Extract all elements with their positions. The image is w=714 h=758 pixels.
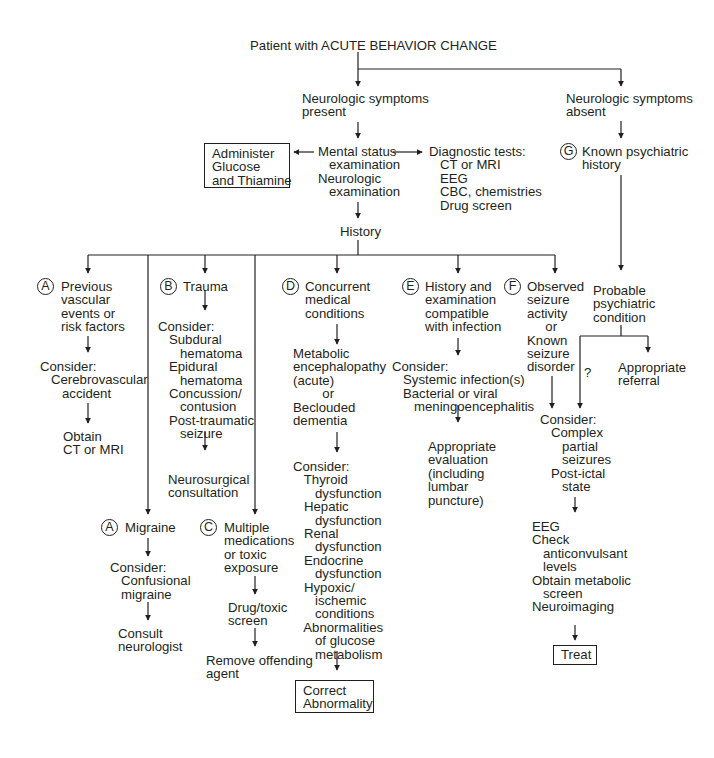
letter-e-circle-icon: E (402, 278, 419, 295)
node-appropriate-referral: Appropriate referral (618, 361, 686, 388)
node-history-infection: History and examination compatible with … (425, 280, 501, 334)
question-mark-label: ? (584, 366, 591, 379)
letter-g-circle-icon: G (560, 143, 577, 160)
flowchart-canvas: Patient with ACUTE BEHAVIOR CHANGE Neuro… (0, 0, 714, 758)
letter-a-circle-icon: A (101, 519, 118, 536)
node-obtain-ct-mri: Obtain CT or MRI (63, 430, 124, 457)
node-seizure-workup: EEG Check anticonvulsant levels Obtain m… (532, 520, 631, 614)
node-metabolic-encephalopathy: Metabolic encephalopathy (acute) or Becl… (293, 347, 386, 427)
letter-a-circle-icon: A (37, 278, 54, 295)
node-multiple-medications: Multiple medications or toxic exposure (224, 521, 294, 575)
node-previous-vascular: Previous vascular events or risk factors (61, 280, 125, 334)
node-consider-trauma: Consider: Subdural hematoma Epidural hem… (158, 320, 254, 441)
node-appropriate-evaluation: Appropriate evaluation (including lumbar… (428, 440, 496, 507)
node-probable-psychiatric: Probable psychiatric condition (593, 284, 655, 324)
node-neuro-present: Neurologic symptoms present (302, 92, 429, 119)
node-consider-medical: Consider: Thyroid dysfunction Hepatic dy… (293, 460, 383, 661)
box-administer-glucose-thiamine: Administer Glucose and Thiamine (204, 143, 290, 188)
node-migraine: Migraine (125, 521, 176, 534)
node-diagnostic-tests: Diagnostic tests: CT or MRI EEG CBC, che… (429, 145, 542, 212)
node-drug-toxic-screen: Drug/toxic screen (228, 601, 287, 628)
node-trauma: Trauma (183, 280, 228, 293)
node-neuro-absent: Neurologic symptoms absent (566, 92, 693, 119)
node-consult-neurologist: Consult neurologist (118, 627, 183, 654)
node-observed-seizure: Observed seizure activity or Known seizu… (527, 280, 584, 374)
node-consider-infection: Consider: Systemic infection(s) Bacteria… (392, 360, 534, 414)
letter-f-circle-icon: F (504, 278, 521, 295)
letter-b-circle-icon: B (160, 278, 177, 295)
box-treat: Treat (553, 645, 597, 665)
node-consider-cva: Consider: Cerebrovascular accident (40, 360, 148, 400)
node-history: History (340, 225, 381, 238)
node-consider-confusional-migraine: Consider: Confusional migraine (110, 561, 191, 601)
root-node-title: Patient with ACUTE BEHAVIOR CHANGE (250, 39, 497, 52)
node-mental-status-exam: Mental status examination Neurologic exa… (318, 145, 400, 199)
node-neurosurgical-consultation: Neurosurgical consultation (168, 473, 249, 500)
node-concurrent-medical: Concurrent medical conditions (305, 280, 370, 320)
letter-d-circle-icon: D (282, 278, 299, 295)
letter-c-circle-icon: C (200, 519, 217, 536)
box-correct-abnormality: Correct Abnormality (295, 680, 374, 713)
node-known-psychiatric-history: Known psychiatric history (582, 145, 688, 172)
node-consider-seizures: Consider: Complex partial seizures Post-… (540, 413, 611, 493)
